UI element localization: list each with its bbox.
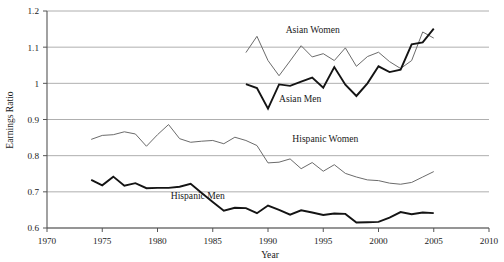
x-tick-label: 2000 xyxy=(369,236,388,246)
x-axis-title: Year xyxy=(261,249,279,260)
y-tick-label: 1 xyxy=(34,79,39,89)
x-tick-label: 1985 xyxy=(204,236,223,246)
y-axis-title: Earnings Ratio xyxy=(4,91,15,148)
series-line-asian-women xyxy=(246,32,434,76)
x-tick-label: 2010 xyxy=(480,236,499,246)
series-label-hispanic-women: Hispanic Women xyxy=(292,133,358,144)
series-label-hispanic-men: Hispanic Men xyxy=(171,190,225,201)
x-tick-labels-group: 197019751980198519901995200020052010 xyxy=(38,236,499,246)
x-tick-label: 1990 xyxy=(259,236,278,246)
tick-marks-group xyxy=(43,11,489,232)
y-tick-label: 0.6 xyxy=(28,223,40,233)
y-tick-label: 0.7 xyxy=(28,187,40,197)
series-label-asian-men: Asian Men xyxy=(279,93,322,104)
series-label-asian-women: Asian Women xyxy=(286,24,340,35)
x-tick-label: 1975 xyxy=(93,236,112,246)
y-tick-label: 1.1 xyxy=(28,43,40,53)
x-tick-label: 1980 xyxy=(148,236,167,246)
series-line-hispanic-women xyxy=(91,125,434,185)
series-lines-group xyxy=(91,29,434,223)
series-line-hispanic-men xyxy=(91,177,434,223)
y-tick-label: 1.2 xyxy=(28,6,40,16)
y-tick-labels-group: 0.60.70.80.911.11.2 xyxy=(28,6,40,233)
series-annotations-group: Asian WomenAsian MenHispanic WomenHispan… xyxy=(171,24,359,201)
x-tick-label: 1995 xyxy=(314,236,333,246)
chart-canvas: 0.60.70.80.911.11.2 19701975198019851990… xyxy=(0,0,504,262)
y-tick-label: 0.8 xyxy=(28,151,40,161)
y-tick-label: 0.9 xyxy=(28,115,40,125)
x-tick-label: 1970 xyxy=(38,236,57,246)
x-tick-label: 2005 xyxy=(425,236,444,246)
earnings-ratio-chart: 0.60.70.80.911.11.2 19701975198019851990… xyxy=(0,0,504,262)
gridlines-group xyxy=(47,11,489,228)
